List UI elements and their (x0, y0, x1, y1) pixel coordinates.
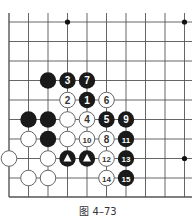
white-stone (1, 151, 17, 167)
go-board: 372164591081112131415 (0, 0, 196, 219)
white-stone (40, 170, 56, 186)
white-stone: 2 (60, 92, 76, 108)
move-number: 15 (122, 175, 131, 184)
move-number: 10 (83, 136, 92, 145)
star-point-icon (65, 19, 70, 24)
move-number: 5 (104, 114, 110, 125)
black-stone (59, 150, 75, 166)
white-stone (60, 131, 76, 147)
black-stone: 7 (79, 72, 95, 88)
white-stone: 12 (99, 151, 115, 167)
black-stone (40, 131, 56, 147)
black-stone (40, 111, 56, 127)
star-point-icon (182, 19, 187, 24)
move-number: 4 (84, 114, 90, 125)
figure-caption: 图 4–73 (0, 203, 196, 218)
move-number: 13 (122, 155, 131, 164)
move-number: 6 (104, 95, 110, 106)
black-stone: 5 (98, 111, 114, 127)
white-stone: 14 (99, 170, 115, 186)
black-stone: 11 (118, 131, 134, 147)
black-stone (79, 150, 95, 166)
star-point-icon (182, 156, 187, 161)
white-stone: 8 (99, 131, 115, 147)
move-number: 8 (104, 134, 110, 145)
move-number: 11 (122, 136, 131, 145)
black-stone: 13 (118, 150, 134, 166)
move-number: 12 (102, 155, 111, 164)
white-stone (40, 151, 56, 167)
white-stone (21, 131, 37, 147)
black-stone: 15 (118, 170, 134, 186)
white-stone: 10 (79, 131, 95, 147)
move-number: 7 (84, 75, 90, 86)
white-stone: 6 (99, 92, 115, 108)
move-number: 1 (84, 95, 90, 106)
move-number: 9 (123, 114, 129, 125)
black-stone (40, 72, 56, 88)
move-number: 2 (65, 95, 71, 106)
black-stone: 9 (118, 111, 134, 127)
white-stone: 4 (79, 112, 95, 128)
white-stone (60, 112, 76, 128)
black-stone (20, 111, 36, 127)
white-stone (21, 170, 37, 186)
move-number: 14 (102, 175, 111, 184)
move-number: 3 (65, 75, 71, 86)
black-stone: 3 (59, 72, 75, 88)
black-stone: 1 (79, 92, 95, 108)
